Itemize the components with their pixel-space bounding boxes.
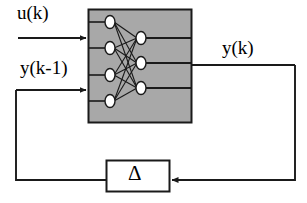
diagram-canvas: u(k) y(k-1) y(k) Δ xyxy=(0,0,307,203)
neuron-output-3 xyxy=(136,82,146,95)
neuron-input-1 xyxy=(105,16,115,29)
neuron-output-1 xyxy=(136,32,146,45)
input-label-y-k-minus-1: y(k-1) xyxy=(20,58,67,77)
neuron-output-2 xyxy=(136,57,146,70)
diagram-svg xyxy=(0,0,307,203)
neuron-input-2 xyxy=(105,42,115,55)
output-label-y-k: y(k) xyxy=(222,38,254,57)
delay-block-label: Δ xyxy=(128,163,142,184)
neuron-input-4 xyxy=(105,95,115,108)
input-label-u-k: u(k) xyxy=(17,3,49,22)
output-layer-nodes xyxy=(136,32,146,95)
neuron-input-3 xyxy=(105,69,115,82)
neural-network-block xyxy=(88,10,192,123)
